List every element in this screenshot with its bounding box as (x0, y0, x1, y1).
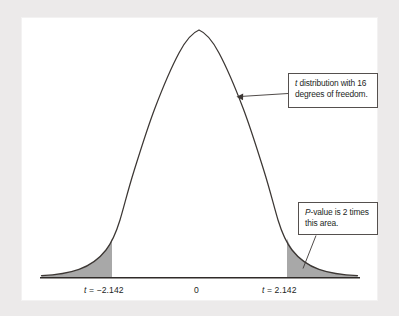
left-tail-shaded-region (42, 239, 113, 278)
figure-root: t distribution with 16 degrees of freedo… (0, 0, 399, 316)
curve-annotation-arrow (237, 94, 289, 101)
curve-annotation-box: t distribution with 16 degrees of freedo… (288, 73, 378, 108)
right-tail-shaded-region (287, 239, 358, 278)
t-distribution-chart (0, 0, 399, 316)
pvalue-annotation-line-2: this area. (305, 218, 372, 229)
t-distribution-curve (42, 30, 358, 276)
curve-annotation-line-1: t distribution with 16 (295, 78, 372, 89)
axis-label-positive-critical: t = 2.142 (262, 285, 297, 295)
pvalue-annotation-box: P-value is 2 times this area. (298, 202, 378, 235)
pvalue-annotation-line-1: P-value is 2 times (305, 207, 372, 218)
curve-annotation-line-2: degrees of freedom. (295, 89, 372, 100)
axis-label-zero: 0 (194, 285, 199, 295)
axis-label-negative-critical: t = −2.142 (84, 285, 124, 295)
pvalue-annotation-leader (303, 236, 316, 269)
